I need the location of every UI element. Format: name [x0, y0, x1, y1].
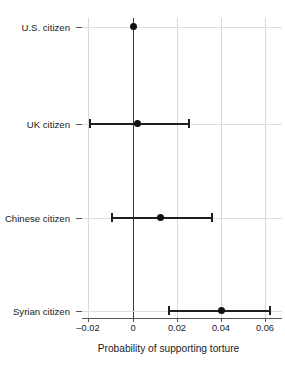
plot-area: [82, 18, 282, 318]
estimate-row-chinese-citizen: [82, 211, 282, 225]
y-tick-mark-uk-citizen: [76, 124, 82, 125]
ci-cap-high-syrian-citizen: [269, 306, 271, 315]
gridline-x-0.02: [177, 18, 178, 318]
gridline-x-0.04: [221, 18, 222, 318]
x-axis-spine: [82, 318, 282, 319]
point-estimate-chinese-citizen: [157, 214, 164, 221]
ci-cap-low-chinese-citizen: [111, 213, 113, 222]
x-tick-label-0.04: 0.04: [212, 322, 230, 334]
estimate-row-uk-citizen: [82, 117, 282, 131]
ci-cap-high-chinese-citizen: [211, 213, 213, 222]
y-axis-label-syrian-citizen: Syrian citizen: [13, 306, 70, 317]
x-tick-label-0.02: 0.02: [168, 322, 186, 334]
gridline-x-0.06: [265, 18, 266, 318]
point-estimate-us-citizen: [130, 23, 137, 30]
ci-cap-low-uk-citizen: [89, 119, 91, 128]
x-tick-label--0.02: –0.02: [76, 322, 99, 334]
x-axis-title: Probability of supporting torture: [0, 343, 285, 354]
y-axis-label-uk-citizen: UK citizen: [27, 119, 70, 130]
point-estimate-syrian-citizen: [218, 307, 225, 314]
y-tick-mark-syrian-citizen: [76, 311, 82, 312]
y-tick-mark-us-citizen: [76, 27, 82, 28]
x-tick-label-0: 0: [130, 322, 135, 334]
estimate-row-syrian-citizen: [82, 304, 282, 318]
coefficient-plot-figure: U.S. citizen UK citizen Chinese citizen …: [0, 0, 285, 372]
x-tick-label-0.06: 0.06: [256, 322, 274, 334]
y-tick-mark-chinese-citizen: [76, 218, 82, 219]
ci-cap-low-syrian-citizen: [168, 306, 170, 315]
estimate-row-us-citizen: [82, 20, 282, 34]
gridline-x--0.02: [88, 18, 89, 318]
ci-cap-high-uk-citizen: [188, 119, 190, 128]
point-estimate-uk-citizen: [134, 120, 141, 127]
zero-reference-line: [133, 18, 134, 318]
y-axis-label-us-citizen: U.S. citizen: [21, 22, 70, 33]
y-axis-label-chinese-citizen: Chinese citizen: [5, 213, 70, 224]
